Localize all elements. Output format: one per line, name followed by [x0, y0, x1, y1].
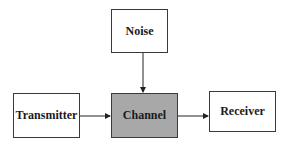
channel-label: Channel	[123, 108, 166, 123]
transmitter-label: Transmitter	[16, 108, 78, 123]
receiver-box: Receiver	[209, 91, 276, 132]
noise-box: Noise	[111, 9, 168, 53]
noise-label: Noise	[126, 24, 154, 39]
communication-block-diagram: Noise Transmitter Channel Receiver	[0, 0, 286, 148]
transmitter-box: Transmitter	[13, 93, 80, 138]
channel-box: Channel	[111, 93, 178, 138]
receiver-label: Receiver	[220, 104, 265, 119]
